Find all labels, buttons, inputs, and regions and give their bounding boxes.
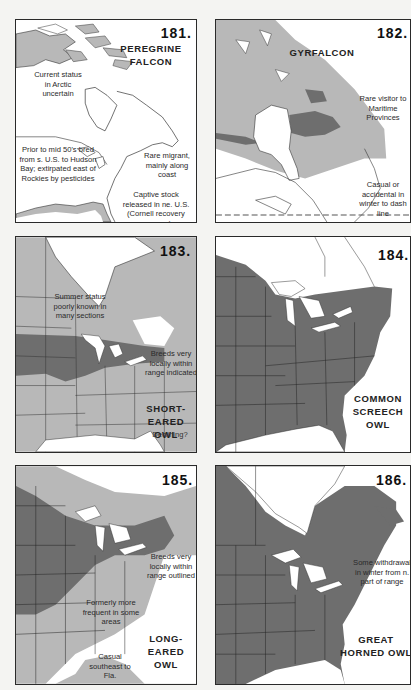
species-title: GREAT HORNED OWL (340, 633, 411, 659)
map-panel-short-eared-owl: 183. Summer status poorly known in many … (15, 236, 197, 453)
title-line: SHORT-EARED (132, 402, 197, 428)
species-title: PEREGRINE FALCON (116, 42, 186, 68)
note-casual-southeast: Casual southeast to Fla. (86, 652, 134, 681)
title-line: OWL (346, 418, 410, 431)
title-line: LONG-EARED (132, 632, 197, 658)
note-historic-range: Prior to mid 50's bred from s. U.S. to H… (18, 145, 98, 183)
map-panel-common-screech-owl: 184. COMMON SCREECH OWL (215, 236, 411, 453)
title-line: FALCON (116, 55, 186, 68)
map-panel-peregrine-falcon: 181. PEREGRINE FALCON Current status in … (15, 19, 197, 223)
title-line: PEREGRINE (116, 42, 186, 55)
species-number: 182. (377, 25, 408, 41)
note-rare-migrant: Rare migrant, mainly along coast (138, 151, 196, 180)
note-breeds-locally: Breeds very locally within range indicat… (144, 349, 197, 378)
note-winter-withdrawal: Some withdrawal in winter from n. part o… (352, 558, 411, 587)
note-winter-dash-line: Casual or accidental in winter to dash l… (358, 180, 408, 218)
note-formerly-frequent: Formerly more frequent in some areas (78, 598, 144, 627)
species-number: 186. (376, 472, 407, 488)
map-panel-gyrfalcon: 182. GYRFALCON Rare visitor to Maritime … (215, 19, 411, 223)
map-panel-long-eared-owl: 185. Breeds very locally within range ou… (15, 465, 197, 685)
title-line: GREAT (340, 633, 411, 646)
title-line: SCREECH (346, 405, 410, 418)
title-line: OWL (132, 658, 197, 671)
map-panel-great-horned-owl: 186. Some withdrawal in winter from n. p… (215, 465, 411, 685)
species-title: COMMON SCREECH OWL (346, 392, 410, 431)
title-line: GYRFALCON (282, 46, 362, 59)
title-line: COMMON (346, 392, 410, 405)
species-title: LONG-EARED OWL (132, 632, 197, 671)
species-number: 183. (160, 243, 191, 259)
species-number: 181. (161, 25, 192, 41)
species-number: 185. (162, 472, 193, 488)
species-title: GYRFALCON (282, 46, 362, 59)
note-captive-stock: Captive stock released in ne. U.S. (Corn… (118, 190, 194, 223)
title-line: HORNED OWL (340, 646, 411, 659)
species-number: 184. (378, 247, 409, 263)
note-breeds-locally: Breeds very locally within range outline… (144, 552, 197, 581)
note-declining: Declining? (142, 430, 197, 439)
note-summer-status: Summer status poorly known in many secti… (50, 292, 110, 321)
note-maritime-visitor: Rare visitor to Maritime Provinces (356, 94, 410, 123)
note-arctic-status: Current status in Arctic uncertain (34, 70, 82, 99)
